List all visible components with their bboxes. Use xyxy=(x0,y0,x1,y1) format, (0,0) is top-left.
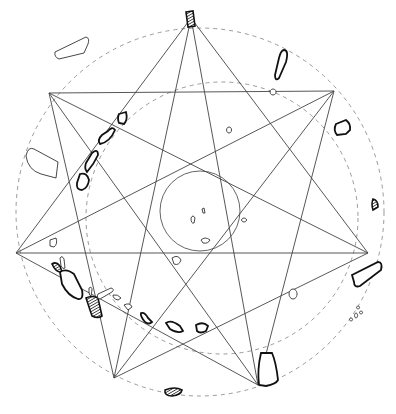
heptagram-7-3-edge-V1-V5 xyxy=(16,91,334,253)
heptagram-7-3-edge-V1-V4 xyxy=(114,91,334,378)
heptagram-7-2-edge-V5-V3 xyxy=(16,253,258,385)
stone-se-cluster-3 xyxy=(360,311,363,314)
stone-nw-outlier xyxy=(55,37,89,59)
stone-west-outlier xyxy=(26,148,58,178)
heptagram-7-2-edge-V4-V2 xyxy=(114,253,368,378)
stone-center-2 xyxy=(202,208,205,213)
stone-se-cluster-2 xyxy=(355,313,358,318)
stone-center-3 xyxy=(201,238,210,243)
stone-center-1 xyxy=(191,216,195,223)
stone-arc-1 xyxy=(118,112,127,124)
stone-south xyxy=(165,388,182,396)
heptagram-7-3-edge-V3-V6 xyxy=(49,93,258,385)
heptagram-construction-lines xyxy=(16,18,368,385)
stone-center-5 xyxy=(227,127,232,133)
stone-arc-8 xyxy=(124,304,132,310)
heptagram-7-3-edge-V2-V6 xyxy=(49,93,368,253)
stone-arc-6 xyxy=(97,288,113,299)
stone-w-small xyxy=(50,238,57,247)
stone-arc-4 xyxy=(77,174,89,190)
heptagram-7-2-edge-V1-V3 xyxy=(258,91,334,385)
stone-se-long xyxy=(352,262,382,287)
heptagram-7-3-edge-V0-V4 xyxy=(114,18,191,378)
stone-se-cluster-4 xyxy=(357,306,360,309)
stone-circle-diagram xyxy=(0,0,396,414)
heptagram-7-2-edge-V6-V1 xyxy=(49,91,334,93)
guide-circles xyxy=(16,28,384,396)
stone-arc-3 xyxy=(85,151,98,172)
stone-ne-small-ring xyxy=(270,89,276,95)
stone-arc-11 xyxy=(196,323,208,332)
stone-se-ring xyxy=(289,289,297,299)
stone-arc-10 xyxy=(166,322,183,333)
stones xyxy=(26,11,382,396)
stone-top xyxy=(186,11,195,27)
stone-arc-5 xyxy=(89,287,92,296)
heptagram-7-2-edge-V0-V2 xyxy=(191,18,368,253)
stone-east-2 xyxy=(372,199,378,210)
stone-se-cluster-1 xyxy=(350,318,353,321)
stone-se-large xyxy=(258,353,278,386)
stone-center-6 xyxy=(242,218,247,222)
stone-arc-7 xyxy=(113,295,121,300)
stone-sw-large xyxy=(60,270,83,299)
stone-sw-hatched-large xyxy=(86,297,102,318)
stone-ne-tall xyxy=(275,50,287,79)
outer-dashed-circle xyxy=(16,28,384,396)
stone-center-4 xyxy=(172,256,181,264)
stone-east xyxy=(335,120,350,135)
